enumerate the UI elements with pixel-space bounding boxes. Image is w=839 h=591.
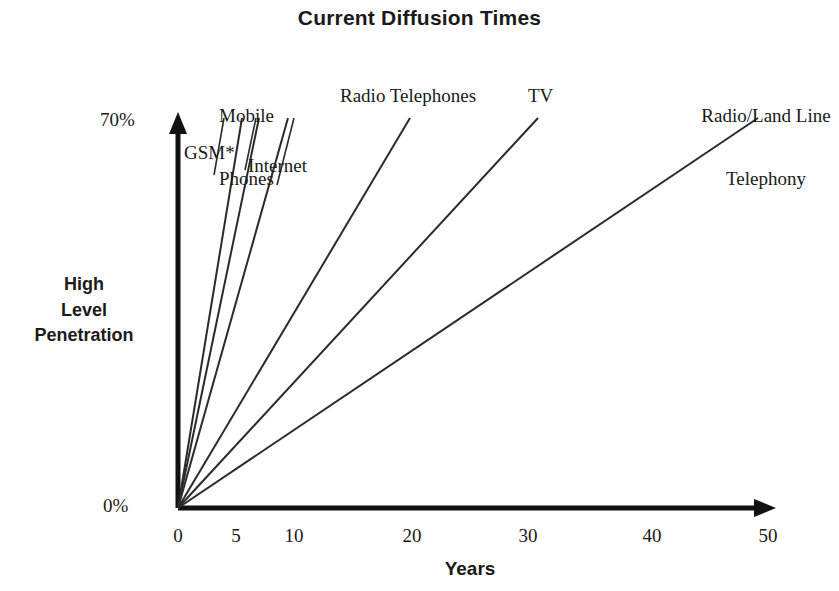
series-label-telephony-line-1: Radio/Land Line: [698, 105, 834, 126]
y-axis-min-label: 0%: [103, 495, 128, 517]
series-label-internet: Internet: [248, 155, 307, 176]
y-axis: [169, 112, 187, 508]
x-tick-50: 50: [746, 525, 790, 547]
ray-radio-telephones: [178, 118, 410, 508]
series-label-telephony: Radio/Land Line Telephony: [698, 62, 834, 232]
series-label-telephony-line-2: Telephony: [698, 168, 834, 189]
y-axis-title-line-3: Penetration: [22, 323, 146, 349]
y-axis-max-label: 70%: [100, 109, 135, 131]
series-label-mobile-phones: Mobile Phones: [219, 62, 274, 232]
x-tick-30: 30: [506, 525, 550, 547]
x-tick-20: 20: [390, 525, 434, 547]
diffusion-times-chart: Current Diffusion Times 70% 0%: [0, 0, 839, 591]
x-axis: [178, 499, 776, 517]
x-tick-40: 40: [630, 525, 674, 547]
y-axis-title: High Level Penetration: [22, 272, 146, 349]
series-label-radio-telephones: Radio Telephones: [340, 85, 476, 106]
series-label-mobile-phones-line-1: Mobile: [219, 105, 274, 126]
x-axis-title: Years: [380, 558, 560, 580]
x-tick-0: 0: [158, 525, 198, 547]
y-axis-title-line-1: High: [22, 272, 146, 298]
x-tick-10: 10: [272, 525, 316, 547]
y-axis-title-line-2: Level: [22, 298, 146, 324]
series-label-tv: TV: [528, 85, 553, 106]
x-tick-5: 5: [216, 525, 256, 547]
